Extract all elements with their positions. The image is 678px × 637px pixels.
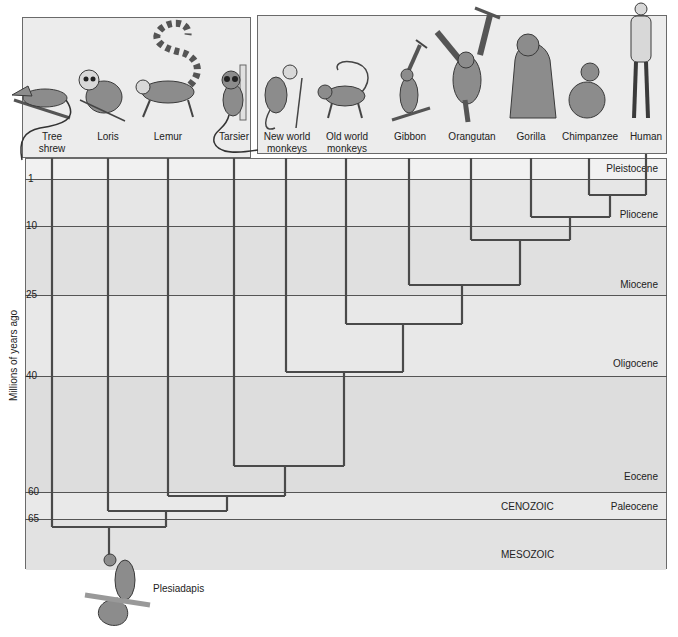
taxon-label-old-world-monkeys: Old world monkeys bbox=[319, 131, 375, 155]
gorilla-icon bbox=[510, 34, 556, 118]
human-icon bbox=[631, 3, 651, 118]
old-world-monkey-icon bbox=[318, 62, 368, 118]
taxon-label-human: Human bbox=[624, 131, 668, 143]
taxon-label-loris: Loris bbox=[86, 131, 130, 143]
taxon-label-new-world-monkeys: New world monkeys bbox=[259, 131, 315, 155]
plesiadapis-icon bbox=[85, 554, 150, 625]
phylogenetic-tree bbox=[0, 0, 678, 637]
taxon-label-gibbon: Gibbon bbox=[387, 131, 433, 143]
taxon-label-tree-shrew: Tree shrew bbox=[30, 131, 74, 155]
orangutan-icon bbox=[437, 8, 500, 122]
taxon-label-chimpanzee: Chimpanzee bbox=[555, 131, 625, 143]
tree-branches bbox=[52, 154, 646, 560]
taxon-label-tarsier: Tarsier bbox=[210, 131, 258, 143]
taxon-label-orangutan: Orangutan bbox=[440, 131, 504, 143]
taxon-label-gorilla: Gorilla bbox=[507, 131, 555, 143]
lemur-icon bbox=[136, 23, 197, 117]
taxon-label-lemur: Lemur bbox=[146, 131, 190, 143]
gibbon-icon bbox=[392, 40, 430, 120]
loris-icon bbox=[79, 70, 125, 121]
ancestor-label-plesiadapis: Plesiadapis bbox=[153, 583, 204, 595]
new-world-monkey-icon bbox=[265, 65, 302, 129]
chimpanzee-icon bbox=[569, 63, 605, 118]
